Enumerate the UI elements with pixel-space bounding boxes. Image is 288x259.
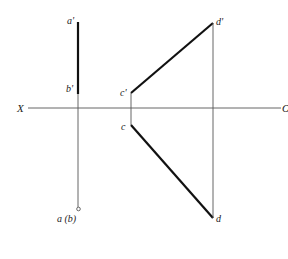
label-d: d [216, 213, 222, 224]
axis-label-o: O [282, 102, 288, 114]
projection-diagram: X O a' b' a (b) c' c d' d [0, 0, 288, 259]
segment-c-d [131, 125, 213, 218]
label-c-prime: c' [120, 87, 127, 98]
point-ab-marker [77, 207, 81, 211]
segment-c-prime-d-prime [131, 23, 213, 93]
label-d-prime: d' [216, 16, 224, 27]
label-a-prime: a' [67, 15, 75, 26]
label-ab: a (b) [57, 213, 77, 225]
label-b-prime: b' [66, 83, 74, 94]
axis-label-x: X [16, 102, 25, 114]
label-c: c [121, 121, 126, 132]
